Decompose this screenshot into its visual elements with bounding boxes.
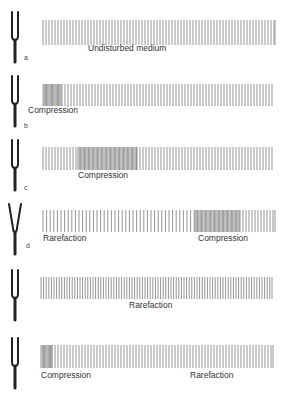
medium-particle-lines	[0, 198, 284, 260]
label-compression: Compression	[78, 171, 128, 180]
label-compression: Compression	[41, 371, 91, 380]
row-letter: c	[24, 184, 28, 191]
medium-particle-lines	[0, 264, 284, 326]
row-letter: a	[24, 54, 28, 61]
diagram-row-c: c Compression	[0, 134, 284, 194]
diagram-row-f: Compression Rarefaction	[0, 332, 284, 394]
diagram-row-d: d Rarefaction Compression	[0, 198, 284, 260]
medium-particle-lines	[0, 332, 284, 394]
label-undisturbed-medium: Undisturbed medium	[88, 44, 166, 53]
label-compression: Compression	[28, 106, 78, 115]
label-rarefaction: Rarefaction	[129, 301, 172, 310]
medium-particle-lines	[0, 70, 284, 130]
label-rarefaction: Rarefaction	[190, 371, 233, 380]
row-letter: d	[26, 242, 30, 249]
diagram-row-e: Rarefaction	[0, 264, 284, 326]
medium-particle-lines	[0, 6, 284, 64]
medium-particle-lines	[0, 134, 284, 194]
tuning-fork-sound-wave-diagram: a Undisturbed medium b Compression c Com…	[0, 0, 284, 395]
diagram-row-a: a Undisturbed medium	[0, 6, 284, 64]
label-compression: Compression	[198, 234, 248, 243]
diagram-row-b: b Compression	[0, 70, 284, 130]
label-rarefaction: Rarefaction	[43, 234, 86, 243]
row-letter: b	[24, 122, 28, 129]
